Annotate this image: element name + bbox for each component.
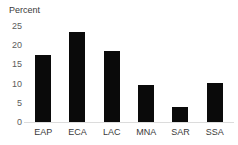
- x-axis-tick-label: LAC: [95, 126, 129, 138]
- x-axis-tick-label: ECA: [60, 126, 94, 138]
- y-axis-tick-label: 10: [0, 79, 22, 88]
- bar-eca[interactable]: [69, 32, 85, 122]
- x-axis-tick-label: MNA: [129, 126, 163, 138]
- x-axis-tick-label: SAR: [163, 126, 197, 138]
- bar-eap[interactable]: [35, 55, 51, 122]
- x-axis-tick-label: EAP: [26, 126, 60, 138]
- bar-slot: [95, 26, 129, 122]
- y-axis: 0510152025: [0, 26, 22, 122]
- bar-slot: [198, 26, 232, 122]
- axis-baseline: [24, 122, 234, 123]
- y-axis-tick-label: 0: [0, 118, 22, 127]
- y-axis-tick-label: 20: [0, 41, 22, 50]
- bar-mna[interactable]: [138, 85, 154, 122]
- plot-area: [26, 26, 232, 122]
- y-axis-tick-label: 25: [0, 22, 22, 31]
- bar-slot: [26, 26, 60, 122]
- bar-slot: [129, 26, 163, 122]
- y-axis-tick-label: 5: [0, 98, 22, 107]
- bar-ssa[interactable]: [207, 83, 223, 122]
- bar-chart: Percent 0510152025 EAPECALACMNASARSSA: [0, 0, 238, 145]
- bar-slot: [163, 26, 197, 122]
- x-axis: EAPECALACMNASARSSA: [26, 126, 232, 142]
- bar-sar[interactable]: [172, 107, 188, 122]
- x-axis-tick-label: SSA: [198, 126, 232, 138]
- bar-lac[interactable]: [104, 51, 120, 122]
- y-axis-title: Percent: [9, 5, 40, 16]
- bar-slot: [60, 26, 94, 122]
- y-axis-tick-label: 15: [0, 60, 22, 69]
